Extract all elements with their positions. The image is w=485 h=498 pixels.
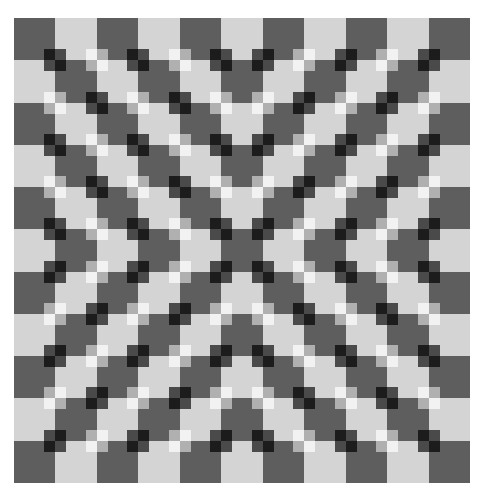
illusion-mini-square <box>55 398 66 409</box>
illusion-mini-square <box>97 49 108 60</box>
illusion-mini-square <box>138 387 149 398</box>
illusion-mini-square <box>169 49 180 60</box>
illusion-mini-square <box>252 430 263 441</box>
illusion-mini-square <box>44 303 55 314</box>
checkerboard-illusion <box>14 18 470 483</box>
illusion-mini-square <box>387 398 398 409</box>
illusion-mini-square <box>210 398 221 409</box>
illusion-mini-square <box>169 176 180 187</box>
illusion-mini-square <box>55 92 66 103</box>
illusion-mini-square <box>418 92 429 103</box>
illusion-mini-square <box>293 134 304 145</box>
illusion-mini-square <box>138 49 149 60</box>
illusion-mini-square <box>210 176 221 187</box>
illusion-mini-square <box>346 103 357 114</box>
illusion-mini-square <box>293 229 304 240</box>
illusion-mini-square <box>376 398 387 409</box>
illusion-mini-square <box>44 218 55 229</box>
illusion-mini-square <box>169 430 180 441</box>
illusion-mini-square <box>263 261 274 272</box>
illusion-mini-square <box>86 145 97 156</box>
illusion-mini-square <box>221 387 232 398</box>
illusion-mini-square <box>221 92 232 103</box>
illusion-mini-square <box>55 356 66 367</box>
illusion-mini-square <box>138 430 149 441</box>
illusion-mini-square <box>418 187 429 198</box>
illusion-mini-square <box>263 103 274 114</box>
illusion-mini-square <box>210 60 221 71</box>
illusion-mini-square <box>86 229 97 240</box>
illusion-mini-square <box>429 49 440 60</box>
illusion-mini-square <box>127 441 138 452</box>
illusion-mini-square <box>387 145 398 156</box>
illusion-mini-square <box>346 398 357 409</box>
illusion-mini-square <box>138 345 149 356</box>
illusion-mini-square <box>429 261 440 272</box>
illusion-mini-square <box>335 92 346 103</box>
illusion-mini-square <box>376 387 387 398</box>
illusion-mini-square <box>86 345 97 356</box>
illusion-mini-square <box>304 387 315 398</box>
illusion-mini-square <box>55 49 66 60</box>
illusion-mini-square <box>335 430 346 441</box>
illusion-mini-square <box>55 272 66 283</box>
illusion-mini-square <box>127 272 138 283</box>
illusion-mini-square <box>169 229 180 240</box>
illusion-mini-square <box>293 345 304 356</box>
illusion-mini-square <box>418 430 429 441</box>
illusion-mini-square <box>263 272 274 283</box>
illusion-mini-square <box>86 134 97 145</box>
illusion-mini-square <box>221 261 232 272</box>
illusion-mini-square <box>180 441 191 452</box>
illusion-mini-square <box>138 303 149 314</box>
illusion-mini-square <box>335 398 346 409</box>
illusion-mini-square <box>252 92 263 103</box>
illusion-mini-square <box>55 261 66 272</box>
illusion-mini-square <box>55 303 66 314</box>
illusion-mini-square <box>180 303 191 314</box>
illusion-mini-square <box>346 356 357 367</box>
illusion-mini-square <box>293 60 304 71</box>
illusion-mini-square <box>263 303 274 314</box>
illusion-mini-square <box>418 103 429 114</box>
illusion-mini-square <box>252 187 263 198</box>
illusion-mini-square <box>169 441 180 452</box>
illusion-mini-square <box>418 60 429 71</box>
illusion-mini-square <box>221 176 232 187</box>
illusion-mini-square <box>210 103 221 114</box>
illusion-mini-square <box>346 60 357 71</box>
illusion-mini-square <box>210 218 221 229</box>
illusion-mini-square <box>180 398 191 409</box>
illusion-mini-square <box>221 303 232 314</box>
illusion-mini-square <box>210 387 221 398</box>
illusion-mini-square <box>429 303 440 314</box>
illusion-mini-square <box>221 314 232 325</box>
illusion-mini-square <box>252 60 263 71</box>
illusion-mini-square <box>429 176 440 187</box>
illusion-mini-square <box>304 398 315 409</box>
illusion-mini-square <box>429 134 440 145</box>
illusion-mini-square <box>86 49 97 60</box>
illusion-mini-square <box>138 103 149 114</box>
illusion-mini-square <box>252 345 263 356</box>
illusion-mini-square <box>418 303 429 314</box>
illusion-mini-square <box>44 187 55 198</box>
illusion-mini-square <box>346 314 357 325</box>
illusion-mini-square <box>221 60 232 71</box>
illusion-mini-square <box>429 398 440 409</box>
illusion-mini-square <box>429 356 440 367</box>
illusion-mini-square <box>127 176 138 187</box>
illusion-mini-square <box>210 49 221 60</box>
illusion-mini-square <box>335 145 346 156</box>
illusion-mini-square <box>304 92 315 103</box>
illusion-mini-square <box>127 261 138 272</box>
illusion-mini-square <box>252 218 263 229</box>
illusion-mini-square <box>252 272 263 283</box>
illusion-mini-square <box>418 314 429 325</box>
illusion-mini-square <box>169 314 180 325</box>
illusion-mini-square <box>169 303 180 314</box>
illusion-mini-square <box>169 218 180 229</box>
illusion-mini-square <box>44 261 55 272</box>
illusion-mini-square <box>263 398 274 409</box>
illusion-mini-square <box>127 49 138 60</box>
